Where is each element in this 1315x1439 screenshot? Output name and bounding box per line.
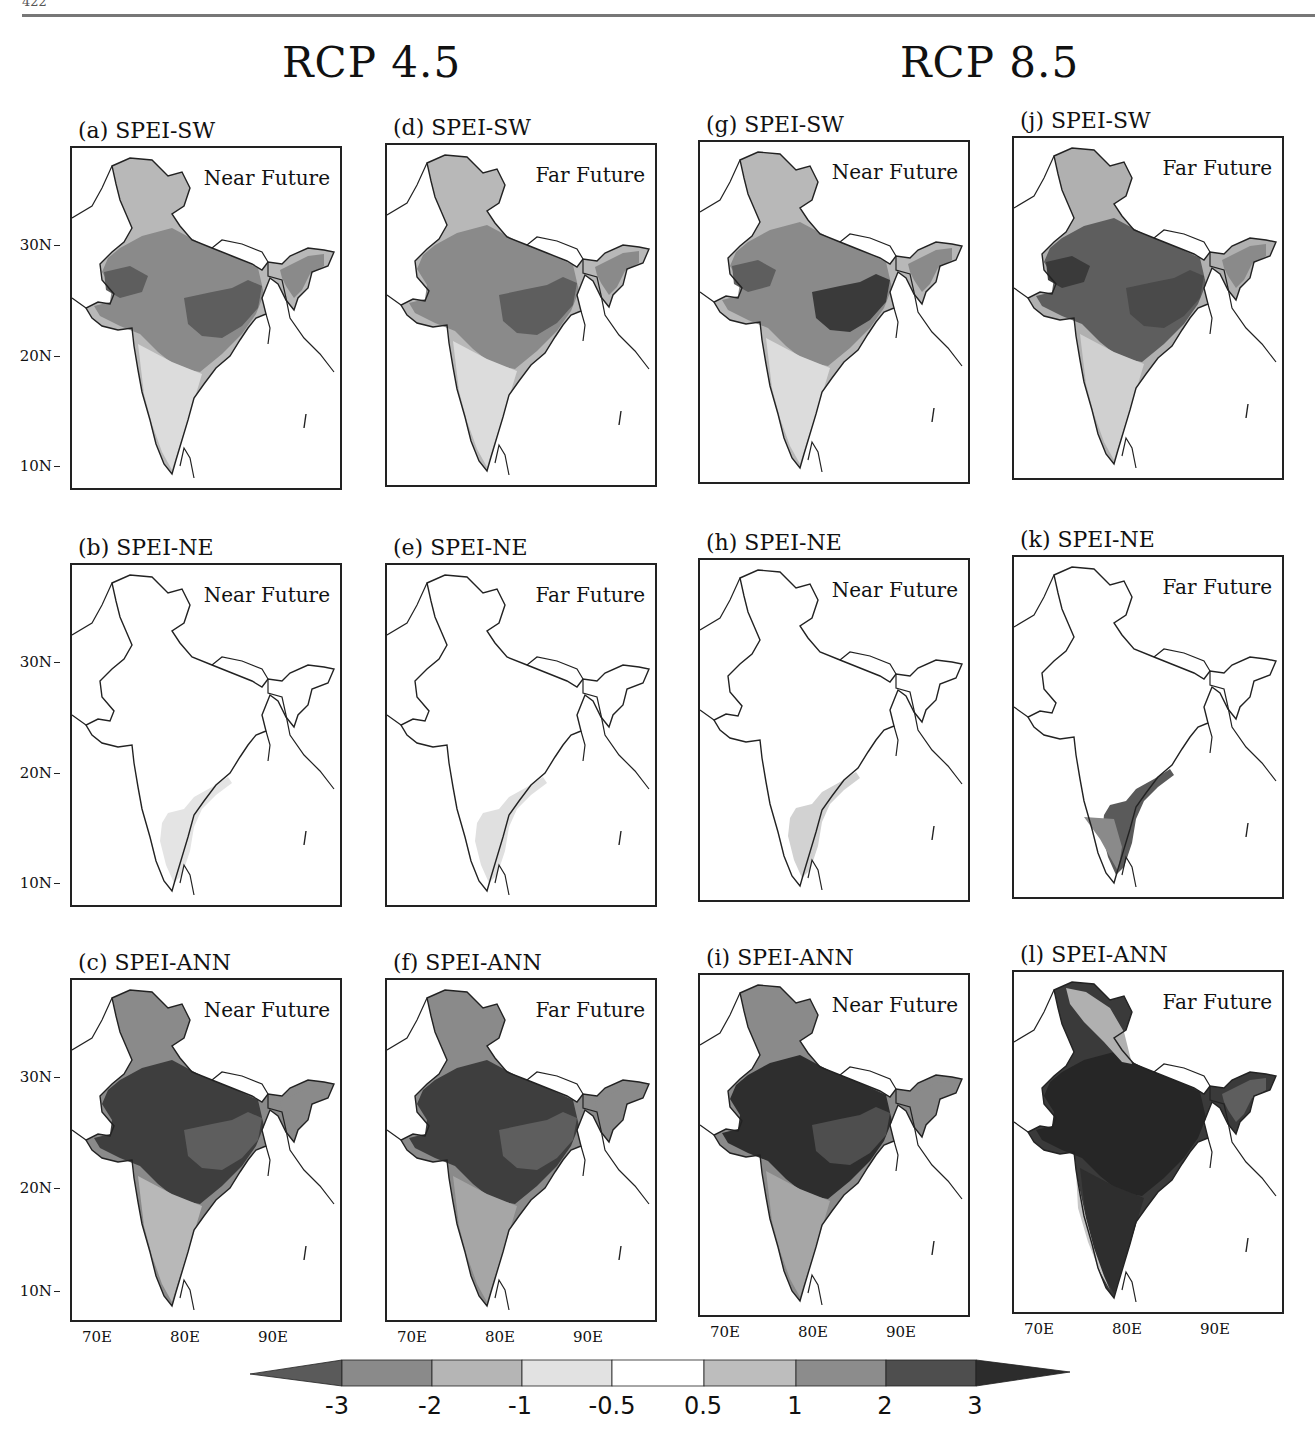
colorbar-tick: -1 (508, 1392, 532, 1420)
period-label: Near Future (204, 583, 330, 607)
india-map (1014, 138, 1282, 478)
panel-label: (d) SPEI-SW (393, 115, 531, 140)
x-tick-80e: 80E (1112, 1320, 1142, 1338)
india-map (700, 560, 968, 900)
period-label: Far Future (536, 998, 645, 1022)
map-panel-d: (d) SPEI-SW Far Future (375, 115, 695, 525)
period-label: Far Future (1163, 156, 1272, 180)
map-frame: Far Future (385, 143, 657, 487)
panel-label: (i) SPEI-ANN (706, 945, 854, 970)
top-rule (22, 14, 1315, 17)
panel-label: (e) SPEI-NE (393, 535, 528, 560)
colorbar-tick: -0.5 (589, 1392, 636, 1420)
period-label: Near Future (204, 166, 330, 190)
x-tick-80e: 80E (485, 1328, 515, 1346)
map-panel-h: (h) SPEI-NE Near Future (688, 530, 1008, 940)
y-tick-20n: 20N (12, 1179, 52, 1197)
map-frame: Far Future (385, 563, 657, 907)
panel-label: (j) SPEI-SW (1020, 108, 1151, 133)
x-tick-90e: 90E (258, 1328, 288, 1346)
y-tick-20n: 20N (12, 764, 52, 782)
map-panel-b: (b) SPEI-NE Near Future 30N 20N 10N (60, 535, 380, 945)
map-panel-k: (k) SPEI-NE Far Future (1002, 527, 1315, 937)
map-frame: Far Future (1012, 136, 1284, 480)
map-panel-i: (i) SPEI-ANN Near Future 70E 80E 90E (688, 945, 1008, 1355)
period-label: Near Future (832, 993, 958, 1017)
india-map (700, 975, 968, 1315)
india-map (387, 980, 655, 1320)
scenario-title-rcp45: RCP 4.5 (282, 38, 461, 87)
y-tick-10n: 10N (12, 1282, 52, 1300)
map-frame: Near Future (698, 558, 970, 902)
y-tick-30n: 30N (12, 236, 52, 254)
y-tick-10n: 10N (12, 874, 52, 892)
colorbar-extend-high (976, 1360, 1070, 1386)
map-frame: Near Future (698, 973, 970, 1317)
map-frame: Far Future (1012, 970, 1284, 1314)
colorbar-tick: 3 (967, 1392, 982, 1420)
india-map (72, 148, 340, 488)
panel-label: (h) SPEI-NE (706, 530, 842, 555)
map-panel-e: (e) SPEI-NE Far Future (375, 535, 695, 945)
map-frame: Near Future (70, 563, 342, 907)
map-panel-l: (l) SPEI-ANN Far Future 70E 80E 90E (1002, 942, 1315, 1352)
x-tick-70e: 70E (1024, 1320, 1054, 1338)
colorbar-tick: -3 (325, 1392, 349, 1420)
x-tick-80e: 80E (798, 1323, 828, 1341)
x-tick-90e: 90E (573, 1328, 603, 1346)
panel-label: (c) SPEI-ANN (78, 950, 231, 975)
map-panel-g: (g) SPEI-SW Near Future (688, 112, 1008, 522)
panel-label: (g) SPEI-SW (706, 112, 844, 137)
india-map (1014, 972, 1282, 1312)
map-panel-f: (f) SPEI-ANN Far Future 70E 80E 90E (375, 950, 695, 1360)
period-label: Far Future (1163, 990, 1272, 1014)
map-frame: Near Future (70, 978, 342, 1322)
page-number: 422 (22, 0, 47, 9)
panel-label: (f) SPEI-ANN (393, 950, 542, 975)
colorbar-legend (250, 1352, 1070, 1392)
x-tick-70e: 70E (82, 1328, 112, 1346)
period-label: Near Future (204, 998, 330, 1022)
x-tick-90e: 90E (886, 1323, 916, 1341)
scenario-title-rcp85: RCP 8.5 (900, 38, 1079, 87)
map-panel-a: (a) SPEI-SW Near Future 30N 20N 10N (60, 118, 380, 528)
colorbar-tick: 0.5 (684, 1392, 722, 1420)
y-tick-10n: 10N (12, 457, 52, 475)
y-tick-30n: 30N (12, 1068, 52, 1086)
map-frame: Near Future (70, 146, 342, 490)
panel-label: (k) SPEI-NE (1020, 527, 1155, 552)
map-panel-c: (c) SPEI-ANN Near Future 30N 20N 10N 70E… (60, 950, 380, 1360)
india-map (1014, 557, 1282, 897)
period-label: Near Future (832, 578, 958, 602)
map-frame: Far Future (385, 978, 657, 1322)
colorbar-extend-low (250, 1360, 342, 1386)
x-tick-90e: 90E (1200, 1320, 1230, 1338)
x-tick-80e: 80E (170, 1328, 200, 1346)
panel-label: (b) SPEI-NE (78, 535, 214, 560)
period-label: Far Future (536, 583, 645, 607)
india-map (387, 565, 655, 905)
y-tick-20n: 20N (12, 347, 52, 365)
india-map (72, 565, 340, 905)
india-map (72, 980, 340, 1320)
map-panel-j: (j) SPEI-SW Far Future (1002, 108, 1315, 518)
colorbar-tick: 2 (877, 1392, 892, 1420)
period-label: Far Future (1163, 575, 1272, 599)
colorbar-tick: 1 (787, 1392, 802, 1420)
map-frame: Far Future (1012, 555, 1284, 899)
x-tick-70e: 70E (710, 1323, 740, 1341)
panel-label: (a) SPEI-SW (78, 118, 215, 143)
map-frame: Near Future (698, 140, 970, 484)
period-label: Near Future (832, 160, 958, 184)
panel-label: (l) SPEI-ANN (1020, 942, 1168, 967)
y-tick-30n: 30N (12, 653, 52, 671)
x-tick-70e: 70E (397, 1328, 427, 1346)
india-map (387, 145, 655, 485)
colorbar-tick: -2 (418, 1392, 442, 1420)
india-map (700, 142, 968, 482)
period-label: Far Future (536, 163, 645, 187)
